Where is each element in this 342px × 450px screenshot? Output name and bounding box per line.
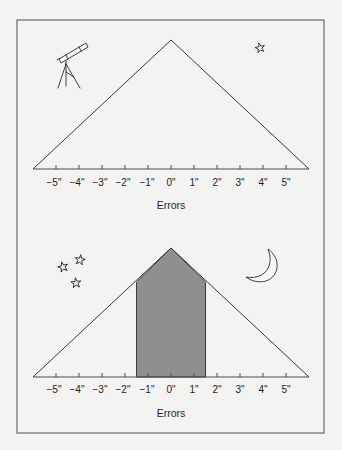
tick-label: −2" xyxy=(116,177,131,188)
tick-label: 1" xyxy=(189,177,199,188)
tick-label: −1" xyxy=(140,177,155,188)
tick-label: 1" xyxy=(189,384,199,395)
tick-label: −3" xyxy=(93,177,108,188)
error-distribution-figure: −5" −4" −3" −2" −1" 0" 1" 2" 3" 4" 5" Er… xyxy=(0,0,342,450)
tick-label: −4" xyxy=(70,384,85,395)
tick-label: −4" xyxy=(70,177,85,188)
tick-label: 4" xyxy=(258,384,268,395)
tick-label: 3" xyxy=(235,384,245,395)
tick-label: 5" xyxy=(281,177,291,188)
tick-label: 4" xyxy=(258,177,268,188)
tick-label: 0" xyxy=(166,384,176,395)
tick-label: 5" xyxy=(281,384,291,395)
tick-label: −3" xyxy=(93,384,108,395)
bottom-x-axis-title: Errors xyxy=(157,407,186,419)
tick-label: −1" xyxy=(140,384,155,395)
tick-label: −5" xyxy=(47,177,62,188)
tick-label: 0" xyxy=(166,177,176,188)
tick-label: −5" xyxy=(47,384,62,395)
tick-label: 2" xyxy=(212,177,222,188)
tick-label: −2" xyxy=(116,384,131,395)
tick-label: 3" xyxy=(235,177,245,188)
tick-label: 2" xyxy=(212,384,222,395)
top-x-axis-title: Errors xyxy=(157,199,186,211)
